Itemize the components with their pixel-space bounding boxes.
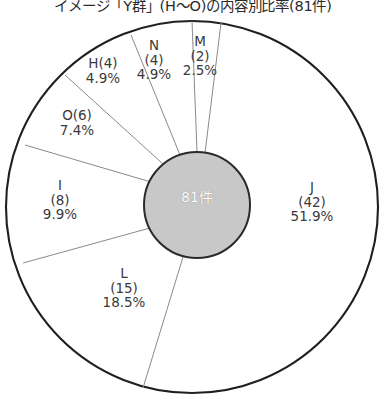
slice-label-H-name: H(4) — [72, 56, 134, 71]
slice-label-H: H(4) 4.9% — [72, 56, 134, 85]
slice-label-O-name: O(6) — [46, 108, 108, 123]
pie-chart-figure: イメージ「Y群」(H～O)の内容別比率(81件) H(4) 4.9% — [0, 0, 386, 406]
slice-label-M-count: (2) — [178, 49, 222, 64]
slice-label-I-percent: 9.9% — [36, 207, 84, 222]
slice-label-O-percent: 7.4% — [46, 123, 108, 138]
slice-label-I-count: (8) — [36, 193, 84, 208]
slice-label-N-percent: 4.9% — [134, 67, 174, 82]
slice-label-J-percent: 51.9% — [280, 209, 344, 224]
slice-label-N: N (4) 4.9% — [134, 38, 174, 82]
slice-label-M-percent: 2.5% — [178, 63, 222, 78]
slice-label-M-name: M — [178, 34, 222, 49]
slice-label-J-count: (42) — [280, 195, 344, 210]
slice-label-L: L (15) 18.5% — [92, 266, 156, 310]
slice-label-L-name: L — [92, 266, 156, 281]
slice-label-M: M (2) 2.5% — [178, 34, 222, 78]
slice-label-J: J (42) 51.9% — [280, 180, 344, 224]
slice-label-O: O(6) 7.4% — [46, 108, 108, 137]
slice-label-I-name: I — [36, 178, 84, 193]
slice-label-I: I (8) 9.9% — [36, 178, 84, 222]
slice-label-N-name: N — [134, 38, 174, 53]
pie-center-hub — [144, 152, 250, 258]
slice-label-L-count: (15) — [92, 281, 156, 296]
pie-center-total-label: 81件 — [160, 190, 234, 205]
slice-label-H-percent: 4.9% — [72, 71, 134, 86]
slice-label-N-count: (4) — [134, 53, 174, 68]
slice-label-L-percent: 18.5% — [92, 295, 156, 310]
slice-label-J-name: J — [280, 180, 344, 195]
